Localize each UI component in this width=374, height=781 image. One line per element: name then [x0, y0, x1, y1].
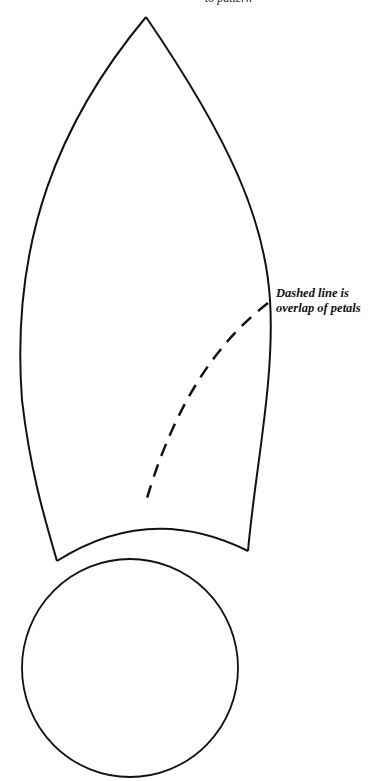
petal-pattern-diagram: [0, 0, 374, 781]
center-circle: [22, 559, 238, 777]
petal-base-arc: [57, 529, 248, 561]
overlap-dashed-line: [145, 303, 268, 505]
petal-outline: [20, 17, 271, 561]
annotation-line-2: overlap of petals: [276, 301, 361, 316]
annotation-line-1: Dashed line is: [276, 286, 361, 301]
overlap-annotation: Dashed line is overlap of petals: [276, 286, 361, 316]
